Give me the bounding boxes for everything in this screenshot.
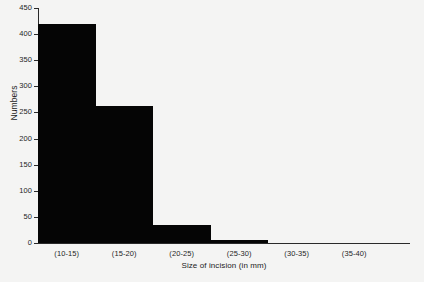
y-tick-label: 400 [6, 30, 32, 38]
y-tick-label: 50 [6, 213, 32, 221]
x-tick-label: (30-35) [266, 249, 328, 259]
x-tick-label: (35-40) [323, 249, 385, 259]
bar [153, 225, 211, 243]
y-tick-label: 300 [6, 82, 32, 90]
y-tick-label: 250 [6, 108, 32, 116]
y-axis-title: Numbers [7, 67, 21, 139]
bar [96, 106, 154, 243]
y-tick-label: 100 [6, 187, 32, 195]
y-tick-label: 450 [6, 4, 32, 12]
y-tick-label: 200 [6, 135, 32, 143]
x-axis-title: Size of incision (in mm) [38, 261, 410, 270]
y-tick-label: 150 [6, 161, 32, 169]
x-tick-label: (15-20) [93, 249, 155, 259]
plot-area: 050100150200250300350400450 (10-15)(15-2… [38, 8, 410, 243]
bar [38, 24, 96, 243]
x-tick-label: (20-25) [151, 249, 213, 259]
y-tick-mark [34, 243, 38, 244]
y-tick-mark [34, 8, 38, 9]
y-tick-label: 350 [6, 56, 32, 64]
y-tick-label: 0 [6, 239, 32, 247]
bar [211, 240, 269, 243]
x-tick-label: (10-15) [36, 249, 98, 259]
x-axis-line [38, 243, 410, 244]
histogram-chart: Numbers 050100150200250300350400450 (10-… [0, 0, 424, 282]
x-tick-label: (25-30) [208, 249, 270, 259]
